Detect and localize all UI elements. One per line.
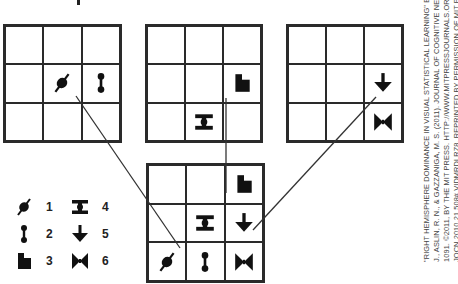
citation-line-3: 1091. ©2011, BY THE MIT PRESS. HTTP://WW… [442,6,452,262]
grid-a-cell-r2c3 [82,64,120,102]
legend-number: 6 [102,254,109,268]
legend-item-1: 1 [14,197,53,217]
combined-cell-r2c2 [186,204,224,243]
grid-b-cell-r3c2 [185,103,223,141]
grid-b-cell-r2c3 [223,64,261,102]
grid-c-cell-r2c2 [326,64,364,102]
grid-a-cell-r2c1 [5,64,43,102]
grid-a-cell-r3c2 [43,103,81,141]
i-beam-icon [193,111,215,133]
grid-a-cell-r1c2 [43,26,81,64]
grid-a-cell-r3c3 [82,103,120,141]
combined-cell-r1c1 [148,165,186,204]
bowtie-icon [372,111,394,133]
grid-c [286,24,404,143]
grid-c-cell-r1c2 [326,26,364,64]
grid-a [3,24,122,143]
grid-c-cell-r3c3 [364,103,402,141]
legend-item-5: 5 [70,224,109,244]
combined-cell-r3c3 [225,242,263,281]
legend-number: 4 [102,200,109,214]
grid-c-cell-r2c3 [364,64,402,102]
grid-b-cell-r2c2 [185,64,223,102]
grid-b-cell-r2c1 [147,64,185,102]
shape-legend: 1 2 3 4 5 6 [6,192,126,272]
slashed-blob-icon [14,197,34,217]
grid-b-cell-r3c3 [223,103,261,141]
legend-number: 3 [46,254,53,268]
combined-cell-r3c1 [148,242,186,281]
down-arrow-icon [372,72,394,94]
dumbbell-icon [194,251,216,273]
grid-c-cell-r2c1 [288,64,326,102]
grid-c-cell-r1c1 [288,26,326,64]
combined-cell-r2c3 [225,204,263,243]
down-arrow-icon [233,212,255,234]
flag-block-icon [14,251,34,271]
combined-cell-r1c3 [225,165,263,204]
combined-grid [146,163,265,283]
citation-line-2: J., ASLIN, R. N., & GAZZANIGA, M. S. (20… [432,6,442,262]
citation-line-4: JOCN.2010.21 508#.VIDMRDLRZ8. REPRINTED … [452,6,458,262]
legend-number: 1 [46,200,53,214]
slashed-blob-icon [156,251,178,273]
grid-c-cell-r3c1 [288,103,326,141]
grid-b-cell-r1c3 [223,26,261,64]
grid-b-cell-r1c2 [185,26,223,64]
down-arrow-icon [70,224,90,244]
flag-block-icon [233,173,255,195]
dumbbell-icon [14,224,34,244]
slashed-blob-icon [51,72,73,94]
grid-b [145,24,263,143]
citation-line-1: "RIGHT HEMISPHERE DOMINANCE IN VISUAL ST… [422,6,432,262]
legend-item-2: 2 [14,224,53,244]
combined-cell-r3c2 [186,242,224,281]
flag-block-icon [231,72,253,94]
grid-c-cell-r1c3 [364,26,402,64]
citation-credit: "RIGHT HEMISPHERE DOMINANCE IN VISUAL ST… [418,0,456,284]
grid-a-cell-r1c1 [5,26,43,64]
legend-item-4: 4 [70,197,109,217]
grid-a-cell-r1c3 [82,26,120,64]
dumbbell-icon [90,72,112,94]
grid-a-cell-r3c1 [5,103,43,141]
combined-cell-r2c1 [148,204,186,243]
figure-label-fragment [77,0,80,5]
legend-item-3: 3 [14,251,53,271]
grid-b-cell-r3c1 [147,103,185,141]
i-beam-icon [194,212,216,234]
bowtie-icon [233,251,255,273]
combined-cell-r1c2 [186,165,224,204]
grid-a-cell-r2c2 [43,64,81,102]
legend-number: 5 [102,227,109,241]
grid-c-cell-r3c2 [326,103,364,141]
grid-b-cell-r1c1 [147,26,185,64]
legend-number: 2 [46,227,53,241]
i-beam-icon [70,197,90,217]
legend-item-6: 6 [70,251,109,271]
bowtie-icon [70,251,90,271]
